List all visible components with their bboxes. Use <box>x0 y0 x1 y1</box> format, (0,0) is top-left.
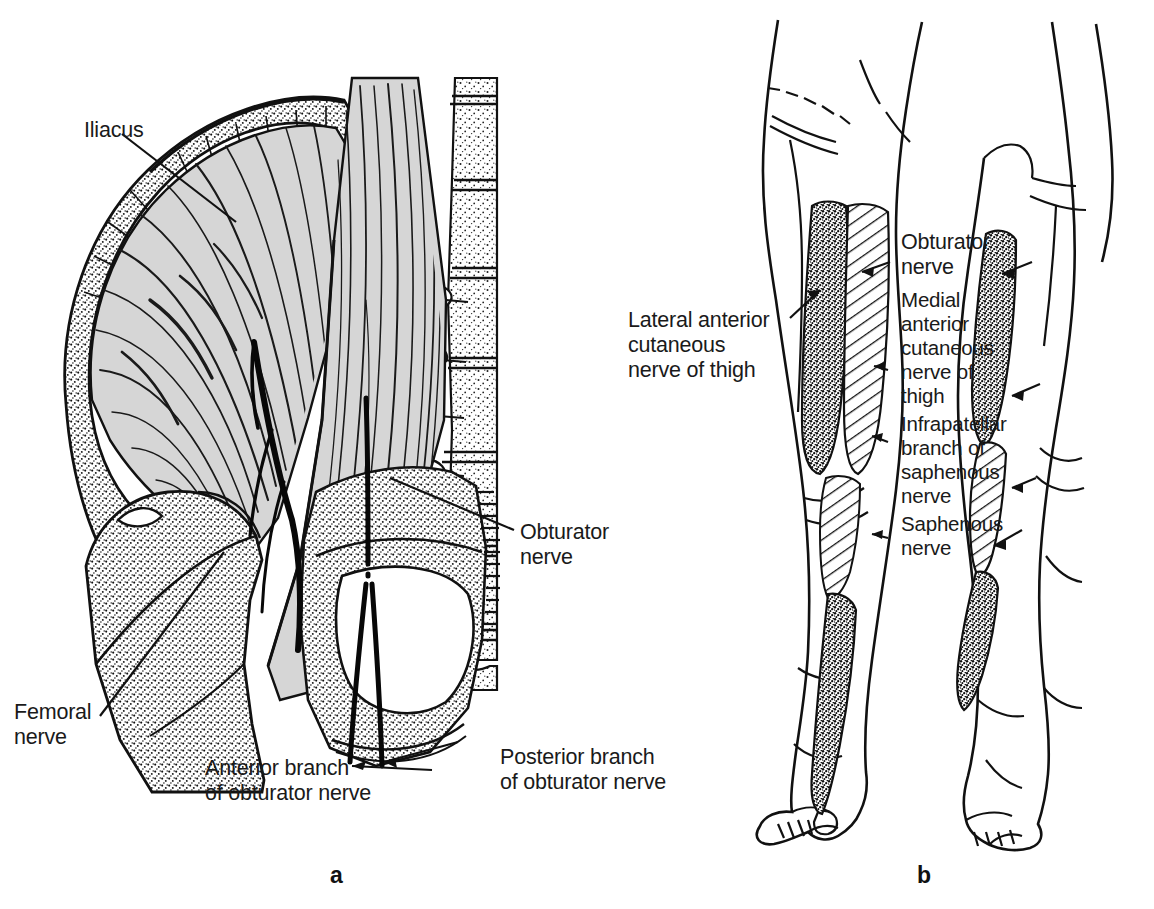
label-posterior-branch-of-obturator-nerve: Posterior branch of obturator nerve <box>500 745 666 795</box>
right-saphenous-territory <box>957 572 998 710</box>
anatomical-figure: Iliacus Femoral nerve Obturator nerve An… <box>0 0 1154 909</box>
label-infrapatellar-branch-of-saphenous-nerve: Infrapatellar branch of saphenous nerve <box>901 412 1007 508</box>
label-medial-anterior-cutaneous-nerve-of-thigh: Medial anterior cutaneous nerve of thigh <box>901 288 994 408</box>
label-obturator-nerve-panel-b: Obturator nerve <box>901 230 990 280</box>
label-iliacus: Iliacus <box>84 118 144 143</box>
lateral-anterior-cutaneous-territory <box>802 202 848 475</box>
panel-letter-b: b <box>917 862 931 889</box>
femur-bone <box>86 491 264 792</box>
panel-a-illustration <box>65 78 514 792</box>
left-infrapatellar-territory <box>820 476 860 598</box>
label-anterior-branch-of-obturator-nerve: Anterior branch of obturator nerve <box>205 756 371 806</box>
leader-medial-anterior-right <box>1012 384 1040 396</box>
panel-letter-a: a <box>330 862 343 889</box>
label-obturator-nerve-panel-a: Obturator nerve <box>520 520 609 570</box>
label-femoral-nerve: Femoral nerve <box>14 700 91 750</box>
label-saphenous-nerve: Saphenous nerve <box>901 512 1003 560</box>
left-saphenous-territory <box>811 594 856 814</box>
label-lateral-anterior-cutaneous-nerve-of-thigh: Lateral anterior cutaneous nerve of thig… <box>628 308 769 383</box>
